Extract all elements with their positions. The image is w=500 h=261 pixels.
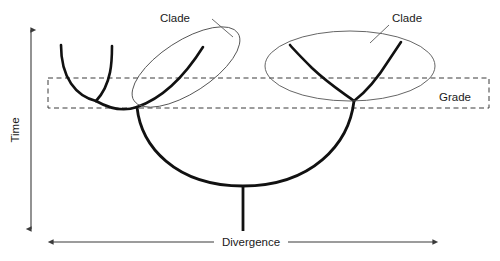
divergence-axis-label: Divergence (222, 236, 280, 248)
time-axis: Time (9, 30, 31, 229)
grade-dashed-box (48, 78, 489, 108)
clade-ellipse-right (265, 31, 435, 101)
branch-left-clade-left-arm (96, 101, 137, 109)
grade-label: Grade (439, 91, 471, 103)
branch-right-clade-right-arm (354, 42, 401, 101)
diagram-root: Time Divergence Grade (0, 0, 500, 261)
clade-ellipses (120, 11, 435, 122)
time-axis-label: Time (9, 117, 21, 142)
clade-left-label: Clade (160, 12, 190, 24)
phylogeny-branches (61, 42, 401, 231)
clade-annotations: Clade Clade (160, 12, 422, 43)
divergence-axis: Divergence (53, 236, 433, 248)
branch-outer-left-ascending (96, 46, 112, 101)
branch-main-arc-right (243, 101, 354, 186)
branch-outer-left-descending (61, 45, 96, 101)
branch-main-arc-left (137, 107, 243, 186)
branch-right-clade-left-arm (290, 45, 354, 101)
clade-ellipse-left (120, 11, 252, 122)
branch-left-clade-right-arm (137, 47, 203, 107)
clade-right-label: Clade (392, 12, 422, 24)
phylogeny-diagram: Time Divergence Grade (0, 0, 500, 261)
grade-band: Grade (48, 78, 489, 108)
